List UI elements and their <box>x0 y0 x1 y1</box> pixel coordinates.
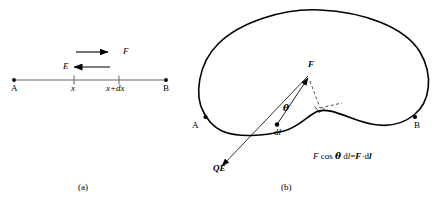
vector-arrow-f <box>277 78 308 125</box>
axis-label-x: x <box>71 84 75 93</box>
vector-label-qe: QE <box>213 164 226 173</box>
panel-b-container: A B F QE θ dl F cos θ dl=F·dl (b) <box>180 0 443 205</box>
dashed-tangent-extension <box>320 103 342 108</box>
field-arrow-label-e: E <box>63 62 69 71</box>
loop-label-a: A <box>192 121 199 130</box>
formula-work-expression: F cos θ dl=F·dl <box>313 152 371 161</box>
panel-a-container: A x x+dx B F E (a) <box>0 0 180 205</box>
force-arrow-label-f: F <box>123 47 129 56</box>
segment-label-dl: dl <box>274 128 281 137</box>
caption-b: (b) <box>281 183 292 192</box>
loop-point-a-dot <box>203 115 207 119</box>
vector-label-f: F <box>308 60 314 69</box>
axis-label-a: A <box>11 84 18 93</box>
figure-root: A x x+dx B F E (a) <box>0 0 443 205</box>
loop-point-b-dot <box>413 115 417 119</box>
formula-cos: cos <box>321 151 333 161</box>
caption-a: (a) <box>78 183 88 192</box>
dashed-perpendicular-line <box>310 81 320 108</box>
axis-label-x-plus-dx: x+dx <box>106 84 125 93</box>
closed-path-loop <box>199 10 429 136</box>
panel-b-svg <box>180 0 443 205</box>
loop-label-b: B <box>414 121 420 130</box>
axis-endpoint-a-dot <box>12 78 16 82</box>
axis-label-b: B <box>163 84 169 93</box>
panel-a-svg <box>0 0 180 205</box>
vector-arrow-qe <box>222 76 308 166</box>
angle-label-theta: θ <box>283 104 289 113</box>
segment-label-dl-l: l <box>279 127 282 137</box>
axis-endpoint-b-dot <box>164 78 168 82</box>
formula-dl2-l: l <box>369 151 372 161</box>
